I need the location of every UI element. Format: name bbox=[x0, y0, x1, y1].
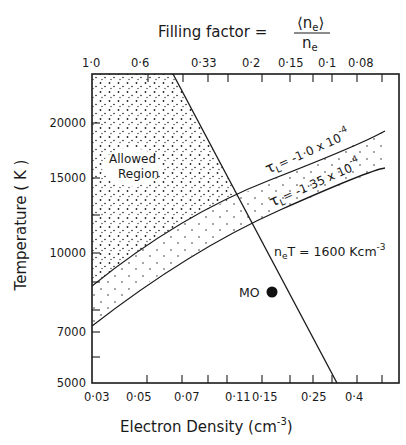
y-tick-label: 10000 bbox=[49, 246, 86, 260]
bottom-tick-labels: 0·03 0·05 0·07 0·11 0·15 0·25 0·4 bbox=[84, 390, 363, 404]
mo-label: MO bbox=[239, 285, 260, 300]
y-axis-title: Temperature ( K ) bbox=[12, 160, 30, 292]
top-tick-label: 0·1 bbox=[318, 56, 336, 70]
x-tick-label: 0·07 bbox=[174, 390, 200, 404]
chart-figure: Filling factor = ⟨ne⟩ ne 1·0 0·6 0·33 0·… bbox=[0, 0, 406, 445]
top-ticks bbox=[148, 74, 382, 82]
x-tick-label: 0·25 bbox=[301, 390, 327, 404]
top-tick-label: 0·33 bbox=[191, 56, 217, 70]
filling-factor-label: Filling factor = bbox=[158, 23, 267, 41]
mo-marker bbox=[267, 287, 278, 298]
allowed-label-line1: Allowed bbox=[109, 152, 156, 166]
x-tick-label: 0·15 bbox=[252, 390, 278, 404]
top-tick-label: 0·08 bbox=[348, 56, 374, 70]
y-tick-label: 5000 bbox=[57, 376, 86, 390]
fraction-numerator: ⟨ne⟩ bbox=[297, 14, 324, 33]
top-tick-labels: 1·0 0·6 0·33 0·2 0·15 0·1 0·08 bbox=[82, 56, 374, 70]
x-tick-label: 0·03 bbox=[84, 390, 110, 404]
x-tick-label: 0·4 bbox=[345, 390, 363, 404]
top-tick-label: 0·6 bbox=[131, 56, 149, 70]
top-tick-label: 0·2 bbox=[242, 56, 260, 70]
y-tick-label: 7000 bbox=[57, 325, 86, 339]
x-tick-label: 0·05 bbox=[126, 390, 152, 404]
top-tick-label: 1·0 bbox=[82, 56, 100, 70]
top-axis-title: Filling factor = ⟨ne⟩ ne bbox=[158, 14, 330, 53]
top-tick-label: 0·15 bbox=[278, 56, 304, 70]
pressure-label: neT = 1600 Kcm-3 bbox=[274, 242, 386, 261]
bottom-ticks bbox=[147, 375, 382, 383]
fraction-denominator: ne bbox=[302, 34, 318, 53]
x-tick-label: 0·11 bbox=[225, 390, 251, 404]
allowed-label-line2: Region bbox=[118, 167, 159, 181]
x-axis-title: Electron Density (cm-3) bbox=[120, 416, 293, 436]
left-tick-labels: 20000 15000 10000 7000 5000 bbox=[49, 116, 86, 390]
y-tick-label: 20000 bbox=[49, 116, 86, 130]
y-tick-label: 15000 bbox=[49, 171, 86, 185]
